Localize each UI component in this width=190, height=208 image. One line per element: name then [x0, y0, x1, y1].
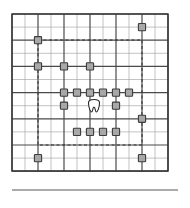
node-marker	[112, 89, 119, 96]
node-marker	[138, 155, 145, 162]
node-marker	[60, 63, 67, 70]
node-marker	[86, 89, 93, 96]
node-marker	[60, 89, 67, 96]
node-marker	[60, 102, 67, 109]
node-marker	[99, 89, 106, 96]
figure-container	[0, 0, 190, 208]
node-marker	[138, 24, 145, 31]
node-marker	[34, 37, 41, 44]
node-marker	[86, 128, 93, 135]
node-marker	[73, 128, 80, 135]
grid-diagram	[0, 0, 190, 208]
node-marker	[34, 63, 41, 70]
node-marker	[86, 63, 93, 70]
node-marker	[112, 128, 119, 135]
node-marker	[138, 115, 145, 122]
node-marker	[99, 128, 106, 135]
node-marker	[34, 155, 41, 162]
node-marker	[112, 102, 119, 109]
node-marker	[73, 89, 80, 96]
node-marker	[125, 89, 132, 96]
